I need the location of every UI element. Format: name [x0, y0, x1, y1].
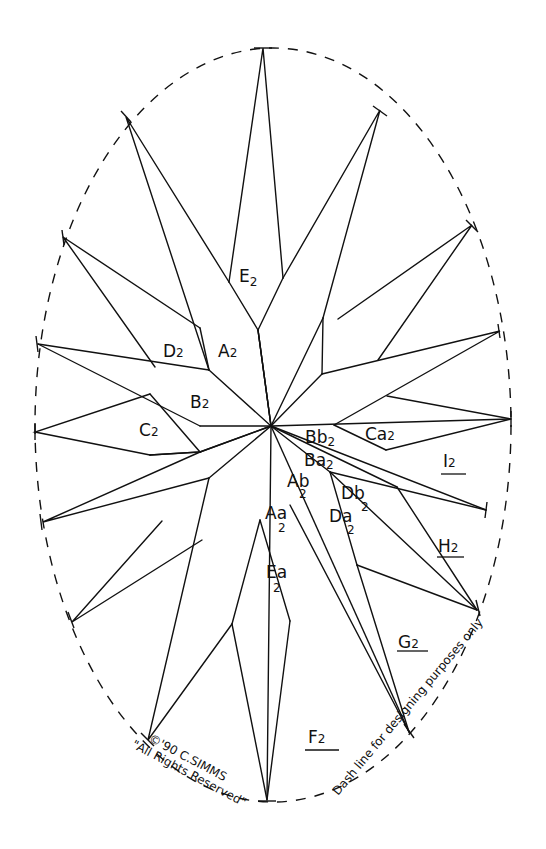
label-Aa2: Aa	[265, 503, 287, 523]
label-I2: I2	[443, 451, 456, 471]
label-Da2-sub: 2	[347, 523, 355, 537]
label-Ba2: Ba2	[304, 450, 334, 472]
label-Ea2: Ea	[266, 562, 287, 582]
label-Bb2: Bb2	[305, 427, 335, 449]
star-lines	[35, 48, 511, 800]
label-Aa2-sub: 2	[278, 521, 286, 535]
label-Ab2-sub: 2	[299, 487, 307, 501]
label-E2: E2	[239, 266, 257, 289]
region-labels: E2 D2 A2 B2 C2 Bb2 Ca2 Ba2 Ab 2 Db 2 Da …	[139, 266, 466, 750]
label-F2: F2	[308, 727, 325, 747]
label-D2: D2	[163, 341, 184, 361]
label-A2: A2	[218, 341, 237, 361]
label-G2: G2	[398, 632, 419, 652]
copyright-notes: ©'90 C.SIMMS "All Rights Reserved" Dash …	[130, 615, 486, 809]
label-B2: B2	[190, 392, 209, 412]
rights-reserved-text: "All Rights Reserved"	[130, 737, 249, 809]
label-H2: H2	[438, 536, 458, 556]
label-Ca2: Ca2	[365, 424, 395, 444]
label-Ea2-sub: 2	[273, 581, 281, 595]
label-Db2-sub: 2	[361, 500, 369, 514]
label-C2: C2	[139, 420, 159, 440]
compass-quilt-diagram: E2 D2 A2 B2 C2 Bb2 Ca2 Ba2 Ab 2 Db 2 Da …	[0, 0, 546, 849]
